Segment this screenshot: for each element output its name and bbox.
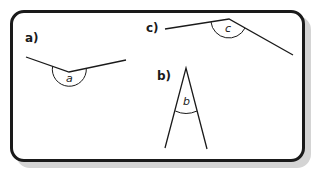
angle-a-label: a): [25, 31, 39, 45]
angle-b: b) b: [157, 68, 207, 149]
angle-c-label: c): [146, 21, 159, 35]
angle-b-label: b): [157, 69, 171, 83]
angle-b-name: b: [183, 95, 190, 108]
angles-diagram: a) a c) c b) b: [0, 0, 316, 172]
angle-c-name: c: [225, 22, 231, 35]
angle-a: a) a: [25, 31, 126, 86]
angle-a-name: a: [66, 72, 73, 85]
angle-c: c) c: [146, 19, 293, 55]
